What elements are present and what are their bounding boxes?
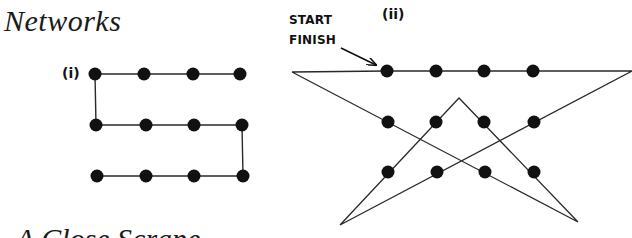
node [91, 170, 104, 183]
node [382, 116, 395, 129]
node [528, 116, 541, 129]
diagram-ii [292, 48, 632, 225]
node [188, 170, 201, 183]
diagram-ii-path [292, 71, 632, 225]
diagram-i-path [95, 74, 243, 176]
node [90, 119, 103, 132]
node [430, 116, 443, 129]
node [430, 65, 443, 78]
node [138, 68, 151, 81]
diagram-i [89, 68, 250, 183]
node [140, 119, 153, 132]
node [479, 166, 492, 179]
node [234, 68, 247, 81]
node [188, 119, 201, 132]
node [89, 68, 102, 81]
node [527, 65, 540, 78]
node [431, 166, 444, 179]
node [140, 170, 153, 183]
node [237, 170, 250, 183]
node [236, 119, 249, 132]
node [478, 116, 491, 129]
node [187, 68, 200, 81]
node [382, 166, 395, 179]
node [381, 65, 394, 78]
node [478, 65, 491, 78]
node [528, 166, 541, 179]
start-finish-arrow-icon [341, 48, 376, 65]
section-title-partial: A Close Scrape [16, 224, 200, 238]
network-diagrams [0, 0, 632, 238]
